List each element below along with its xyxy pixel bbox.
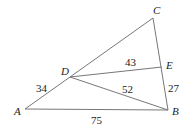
length-label-ab: 75 [91, 114, 103, 126]
point-label-a: A [13, 105, 21, 117]
length-label-eb: 27 [168, 82, 180, 94]
point-label-e: E [165, 59, 173, 71]
point-label-d: D [60, 65, 69, 77]
point-label-b: B [172, 105, 179, 117]
point-label-c: C [153, 4, 161, 16]
length-label-db: 52 [122, 83, 133, 95]
length-label-de: 43 [125, 56, 137, 68]
segment-db [70, 77, 168, 110]
triangle-diagram: A B C D E 34 43 52 27 75 [0, 0, 195, 135]
segment-de [70, 67, 162, 77]
length-label-ad: 34 [36, 82, 48, 94]
segment-ab [25, 109, 168, 110]
